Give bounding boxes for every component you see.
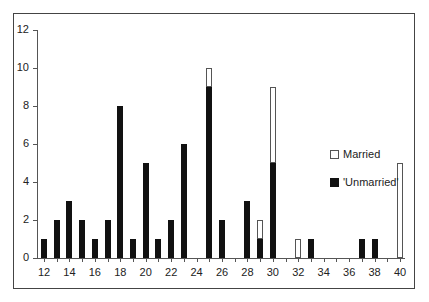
x-tick bbox=[209, 258, 210, 262]
bar-unmarried bbox=[270, 163, 276, 258]
legend: Married 'Unmarried' bbox=[330, 147, 399, 203]
y-tick-label: 8 bbox=[11, 99, 29, 111]
bar-unmarried bbox=[206, 87, 212, 258]
x-tick bbox=[375, 258, 376, 262]
bar-unmarried bbox=[105, 220, 111, 258]
x-tick-label: 30 bbox=[263, 266, 283, 278]
x-tick-label: 34 bbox=[314, 266, 334, 278]
bar-unmarried bbox=[257, 239, 263, 258]
bar-unmarried bbox=[181, 144, 187, 258]
x-tick-label: 22 bbox=[161, 266, 181, 278]
x-tick bbox=[158, 258, 159, 262]
x-tick bbox=[184, 258, 185, 262]
bar-married bbox=[295, 239, 301, 258]
bar-unmarried bbox=[308, 239, 314, 258]
x-tick bbox=[336, 258, 337, 262]
x-tick bbox=[222, 258, 223, 262]
legend-label-unmarried: 'Unmarried' bbox=[343, 176, 399, 188]
y-tick bbox=[33, 106, 37, 107]
x-tick bbox=[108, 258, 109, 262]
x-tick bbox=[171, 258, 172, 262]
bar-unmarried bbox=[66, 201, 72, 258]
bar-unmarried bbox=[168, 220, 174, 258]
bar-married bbox=[257, 220, 263, 239]
bar-unmarried bbox=[117, 106, 123, 258]
x-tick-label: 28 bbox=[237, 266, 257, 278]
x-tick bbox=[57, 258, 58, 262]
bar-married bbox=[270, 87, 276, 163]
x-tick bbox=[44, 258, 45, 262]
y-tick-label: 0 bbox=[11, 251, 29, 263]
x-tick bbox=[298, 258, 299, 262]
y-tick-label: 4 bbox=[11, 175, 29, 187]
x-tick-label: 14 bbox=[59, 266, 79, 278]
unmarried-swatch-icon bbox=[330, 178, 339, 187]
x-tick bbox=[133, 258, 134, 262]
bar-unmarried bbox=[244, 201, 250, 258]
x-tick-label: 26 bbox=[212, 266, 232, 278]
y-tick bbox=[33, 68, 37, 69]
y-tick-label: 10 bbox=[11, 61, 29, 73]
x-tick bbox=[362, 258, 363, 262]
x-tick-label: 32 bbox=[288, 266, 308, 278]
bar-unmarried bbox=[41, 239, 47, 258]
x-tick-label: 12 bbox=[34, 266, 54, 278]
x-tick bbox=[82, 258, 83, 262]
x-tick bbox=[349, 258, 350, 262]
x-tick-label: 16 bbox=[85, 266, 105, 278]
married-swatch-icon bbox=[330, 150, 339, 159]
bar-unmarried bbox=[372, 239, 378, 258]
bar-unmarried bbox=[79, 220, 85, 258]
x-tick-label: 24 bbox=[187, 266, 207, 278]
x-tick bbox=[247, 258, 248, 262]
x-tick bbox=[387, 258, 388, 262]
y-tick bbox=[33, 220, 37, 221]
legend-label-married: Married bbox=[343, 148, 380, 160]
x-tick bbox=[197, 258, 198, 262]
x-tick-label: 36 bbox=[339, 266, 359, 278]
bar-unmarried bbox=[130, 239, 136, 258]
x-tick-label: 38 bbox=[365, 266, 385, 278]
x-tick bbox=[95, 258, 96, 262]
bar-unmarried bbox=[92, 239, 98, 258]
x-tick bbox=[260, 258, 261, 262]
x-tick bbox=[286, 258, 287, 262]
bar-unmarried bbox=[359, 239, 365, 258]
legend-item-unmarried: 'Unmarried' bbox=[330, 175, 399, 189]
x-tick bbox=[146, 258, 147, 262]
x-tick-label: 18 bbox=[110, 266, 130, 278]
bar-unmarried bbox=[143, 163, 149, 258]
y-tick bbox=[33, 144, 37, 145]
x-tick bbox=[235, 258, 236, 262]
bar-unmarried bbox=[219, 220, 225, 258]
x-tick bbox=[120, 258, 121, 262]
y-tick-label: 12 bbox=[11, 23, 29, 35]
legend-item-married: Married bbox=[330, 147, 399, 161]
y-tick-label: 2 bbox=[11, 213, 29, 225]
y-tick bbox=[33, 182, 37, 183]
x-tick bbox=[69, 258, 70, 262]
x-tick bbox=[400, 258, 401, 262]
x-tick-label: 20 bbox=[136, 266, 156, 278]
bar-married bbox=[206, 68, 212, 87]
x-tick bbox=[324, 258, 325, 262]
y-tick-label: 6 bbox=[11, 137, 29, 149]
x-tick bbox=[311, 258, 312, 262]
x-tick-label: 40 bbox=[390, 266, 410, 278]
bar-unmarried bbox=[54, 220, 60, 258]
y-axis bbox=[37, 30, 38, 258]
y-tick bbox=[33, 30, 37, 31]
x-tick bbox=[273, 258, 274, 262]
bar-unmarried bbox=[155, 239, 161, 258]
